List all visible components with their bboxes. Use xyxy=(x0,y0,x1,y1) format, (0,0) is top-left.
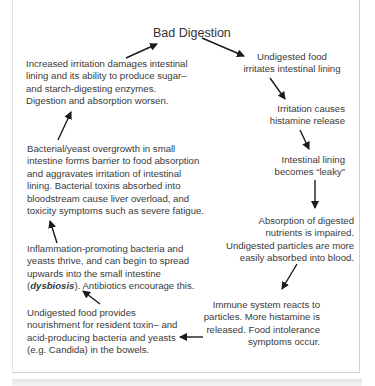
node-leaky-lining: Intestinal lining becomes “leaky” xyxy=(250,154,345,179)
node-line: Bacterial/yeast overgrowth in small xyxy=(27,143,217,155)
node-line: Irritation causes xyxy=(250,103,345,115)
diagram-title: Bad Digestion xyxy=(153,26,231,40)
node-line: symptoms occur. xyxy=(190,336,320,348)
node-line: Undigested particles are more xyxy=(200,240,354,252)
node-line: (e.g. Candida) in the bowels. xyxy=(27,344,187,356)
node-line: and aggravates irritation of intestinal xyxy=(27,168,217,180)
node-line: Undigested food provides xyxy=(27,307,187,319)
node-line: irritates intestinal lining xyxy=(238,63,346,75)
node-line: lining. Bacterial toxins absorbed into xyxy=(27,180,217,192)
node-line: Increased irritation damages intestinal xyxy=(26,58,216,70)
node-line: bloodstream cause liver overload, and xyxy=(27,193,217,205)
dysbiosis-term: dysbiosis xyxy=(30,280,74,291)
node-bacteria-nourishment: Undigested food provides nourishment for… xyxy=(27,307,187,357)
node-line: acid-producing bacteria and yeasts xyxy=(27,332,187,344)
line-suffix: ). Antibiotics encourage this. xyxy=(74,280,194,291)
node-line: becomes “leaky” xyxy=(250,166,345,178)
node-line: and starch-digesting enzymes. xyxy=(26,83,216,95)
node-line: released. Food intolerance xyxy=(190,324,320,336)
node-line: Absorption of digested xyxy=(200,215,354,227)
node-dysbiosis: Inflammation-promoting bacteria and yeas… xyxy=(27,243,207,293)
node-line: (dysbiosis). Antibiotics encourage this. xyxy=(27,280,207,292)
node-line: lining and its ability to produce sugar– xyxy=(26,70,216,82)
node-line: yeasts thrive, and can begin to spread xyxy=(27,255,207,267)
node-line: nutrients is impaired. xyxy=(200,227,354,239)
node-line: particles. More histamine is xyxy=(190,311,320,323)
node-undigested-food: Undigested food irritates intestinal lin… xyxy=(238,51,346,76)
node-line: Digestion and absorption worsen. xyxy=(26,95,216,107)
node-line: Intestinal lining xyxy=(250,154,345,166)
node-histamine-release: Irritation causes histamine release xyxy=(250,103,345,128)
node-line: toxicity symptoms such as severe fatigue… xyxy=(27,205,217,217)
node-increased-irritation: Increased irritation damages intestinal … xyxy=(26,58,216,108)
node-line: Immune system reacts to xyxy=(190,299,320,311)
bottom-divider xyxy=(12,379,362,386)
node-absorption-impaired: Absorption of digested nutrients is impa… xyxy=(200,215,354,265)
node-immune-reaction: Immune system reacts to particles. More … xyxy=(190,299,320,349)
node-line: intestine forms barrier to food absorpti… xyxy=(27,155,217,167)
node-line: easily absorbed into blood. xyxy=(200,252,354,264)
node-line: nourishment for resident toxin– and xyxy=(27,319,187,331)
node-line: Inflammation-promoting bacteria and xyxy=(27,243,207,255)
node-overgrowth: Bacterial/yeast overgrowth in small inte… xyxy=(27,143,217,217)
node-line: histamine release xyxy=(250,115,345,127)
node-line: upwards into the small intestine xyxy=(27,268,207,280)
node-line: Undigested food xyxy=(238,51,346,63)
